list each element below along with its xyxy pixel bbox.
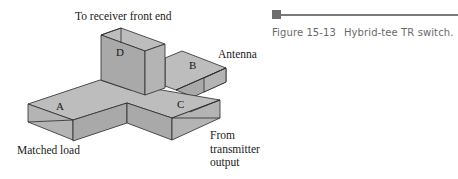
matched-load-label: Matched load (17, 144, 80, 156)
transmitter-label-line3: output (210, 156, 240, 169)
arm-b (165, 51, 226, 97)
receiver-label: To receiver front end (75, 10, 172, 22)
port-b-label: B (189, 59, 196, 71)
caption-marker-square (272, 10, 281, 19)
transmitter-label-line2: transmitter (210, 143, 260, 155)
port-c-label: C (177, 98, 184, 110)
figure-title: Hybrid-tee TR switch. (344, 27, 453, 38)
port-a-label: A (56, 100, 64, 112)
figure-caption: Figure 15-13Hybrid-tee TR switch. (272, 27, 453, 38)
port-d-label: D (116, 46, 124, 58)
figure-number: Figure 15-13 (272, 27, 336, 38)
antenna-label: Antenna (218, 48, 257, 60)
caption-rule-line (281, 14, 458, 16)
transmitter-label-line1: From (210, 129, 235, 141)
